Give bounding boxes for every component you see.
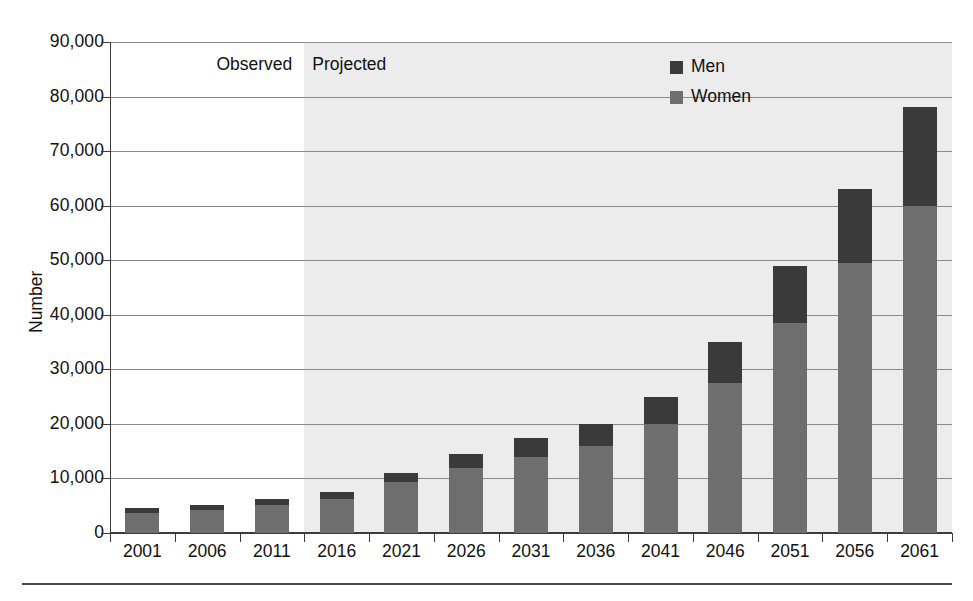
bar-column[interactable]	[255, 499, 289, 533]
bar-column[interactable]	[903, 107, 937, 533]
x-axis-tick	[304, 533, 305, 542]
x-axis-tick-label: 2021	[369, 541, 434, 561]
bar-segment-women[interactable]	[514, 457, 548, 533]
bar-segment-men[interactable]	[903, 107, 937, 205]
x-axis-tick-label: 2006	[175, 541, 240, 561]
bar-segment-men[interactable]	[255, 499, 289, 505]
x-axis-tick-label: 2036	[563, 541, 628, 561]
bar-segment-women[interactable]	[449, 468, 483, 533]
y-axis-tick-label: 10,000	[0, 469, 104, 487]
x-axis-tick-label: 2041	[628, 541, 693, 561]
bar-segment-women[interactable]	[255, 505, 289, 533]
bar-column[interactable]	[579, 424, 613, 533]
y-axis-tick-label: 20,000	[0, 415, 104, 433]
chart-root: Number 010,00020,00030,00040,00050,00060…	[0, 0, 973, 601]
y-axis-tick-label: 90,000	[0, 33, 104, 51]
legend-item[interactable]: Women	[670, 82, 751, 112]
x-axis-tick	[758, 533, 759, 542]
y-axis-tick-label: 30,000	[0, 360, 104, 378]
bar-segment-women[interactable]	[773, 323, 807, 533]
bar-column[interactable]	[773, 266, 807, 533]
bar-segment-women[interactable]	[644, 424, 678, 533]
bar-segment-women[interactable]	[125, 513, 159, 533]
y-axis-tick	[101, 42, 110, 43]
x-axis-tick	[952, 533, 953, 542]
y-axis-tick	[101, 260, 110, 261]
y-axis-tick	[101, 369, 110, 370]
y-axis-tick-label: 0	[0, 524, 104, 542]
bar-segment-men[interactable]	[190, 505, 224, 510]
x-axis-tick	[369, 533, 370, 542]
bar-series-container	[110, 42, 952, 533]
bar-segment-men[interactable]	[708, 342, 742, 383]
x-axis-tick-label: 2031	[499, 541, 564, 561]
x-axis-tick	[563, 533, 564, 542]
bar-column[interactable]	[125, 508, 159, 533]
legend-label: Men	[691, 58, 725, 76]
y-axis-labels: 010,00020,00030,00040,00050,00060,00070,…	[0, 0, 104, 601]
bar-column[interactable]	[320, 492, 354, 533]
x-axis-tick-label: 2056	[822, 541, 887, 561]
bar-segment-women[interactable]	[708, 383, 742, 533]
bar-segment-men[interactable]	[773, 266, 807, 323]
gridline	[110, 533, 952, 534]
legend-swatch-women	[670, 91, 683, 104]
x-axis-tick	[240, 533, 241, 542]
legend-label: Women	[691, 88, 751, 106]
legend-item[interactable]: Men	[670, 52, 751, 82]
x-axis-tick	[822, 533, 823, 542]
x-axis-tick	[434, 533, 435, 542]
y-axis-tick	[101, 315, 110, 316]
y-axis-tick	[101, 533, 110, 534]
bottom-divider	[22, 583, 952, 585]
x-axis-tick	[887, 533, 888, 542]
x-axis-tick-label: 2051	[758, 541, 823, 561]
bar-segment-women[interactable]	[838, 263, 872, 533]
y-axis-tick	[101, 97, 110, 98]
chart-legend: MenWomen	[670, 52, 751, 112]
x-axis-tick	[628, 533, 629, 542]
bar-column[interactable]	[384, 473, 418, 533]
y-axis-tick	[101, 206, 110, 207]
observed-region-label: Observed	[216, 54, 292, 75]
bar-column[interactable]	[190, 505, 224, 533]
bar-column[interactable]	[838, 189, 872, 533]
bar-segment-men[interactable]	[384, 473, 418, 482]
x-axis-tick-label: 2061	[887, 541, 952, 561]
x-axis-tick-label: 2026	[434, 541, 499, 561]
y-axis-tick-label: 40,000	[0, 306, 104, 324]
plot-area: Observed Projected MenWomen	[110, 42, 952, 533]
bar-segment-men[interactable]	[644, 397, 678, 424]
x-axis-tick	[499, 533, 500, 542]
y-axis-tick	[101, 151, 110, 152]
x-axis-tick	[175, 533, 176, 542]
y-axis-tick-label: 70,000	[0, 142, 104, 160]
bar-column[interactable]	[514, 438, 548, 533]
x-axis-labels: 2001200620112016202120262031203620412046…	[110, 541, 952, 571]
y-axis-tick-label: 80,000	[0, 88, 104, 106]
bar-segment-men[interactable]	[514, 438, 548, 457]
y-axis-tick	[101, 478, 110, 479]
bar-segment-women[interactable]	[579, 446, 613, 533]
bar-segment-men[interactable]	[838, 189, 872, 263]
bar-segment-women[interactable]	[320, 499, 354, 533]
bar-segment-men[interactable]	[125, 508, 159, 513]
bar-segment-women[interactable]	[190, 510, 224, 533]
bar-segment-men[interactable]	[449, 454, 483, 468]
x-axis-tick-label: 2016	[304, 541, 369, 561]
bar-segment-women[interactable]	[384, 482, 418, 533]
x-axis-tick-label: 2011	[240, 541, 305, 561]
bar-column[interactable]	[644, 397, 678, 533]
bar-segment-men[interactable]	[579, 424, 613, 446]
bar-segment-men[interactable]	[320, 492, 354, 499]
y-axis-tick-label: 50,000	[0, 251, 104, 269]
legend-swatch-men	[670, 61, 683, 74]
bar-column[interactable]	[449, 454, 483, 533]
y-axis-tick	[101, 424, 110, 425]
x-axis-tick-label: 2046	[693, 541, 758, 561]
bar-segment-women[interactable]	[903, 206, 937, 533]
x-axis-tick	[110, 533, 111, 542]
bar-column[interactable]	[708, 342, 742, 533]
x-axis-tick-label: 2001	[110, 541, 175, 561]
projected-region-label: Projected	[312, 54, 386, 75]
